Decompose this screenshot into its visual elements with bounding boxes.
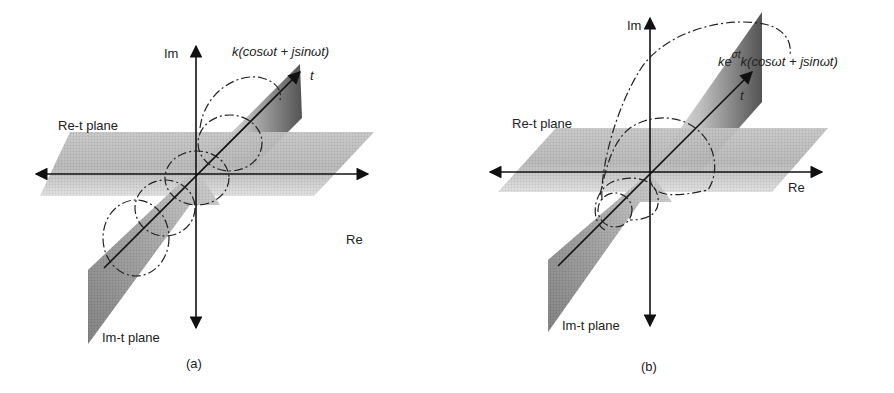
t-axis-label: t — [310, 68, 315, 83]
re-t-plane-label: Re-t plane — [512, 116, 572, 131]
re-axis-label: Re — [346, 232, 363, 247]
im-axis-label: Im — [164, 46, 178, 61]
im-t-plane-label: Im-t plane — [562, 318, 620, 333]
caption-a: (a) — [186, 356, 202, 371]
figure-canvas: Im Re t k(cosωt + jsinωt) Re-t plane Im-… — [0, 0, 894, 393]
im-axis-label: Im — [627, 18, 641, 33]
panel-b: Im Re t keσtk(cosωt + jsinωt) Re-t plane… — [490, 12, 838, 374]
im-t-plane-texture — [548, 172, 672, 332]
re-t-plane-label: Re-t plane — [58, 118, 118, 133]
panel-a: Im Re t k(cosωt + jsinωt) Re-t plane Im-… — [36, 44, 374, 371]
im-t-plane-label: Im-t plane — [102, 330, 160, 345]
formula-a: k(cosωt + jsinωt) — [232, 44, 329, 59]
formula-b-main: k(cosωt + jsinωt) — [741, 54, 838, 69]
caption-b: (b) — [641, 359, 657, 374]
formula-b-prefix: ke — [718, 54, 732, 69]
re-axis-label: Re — [788, 180, 805, 195]
